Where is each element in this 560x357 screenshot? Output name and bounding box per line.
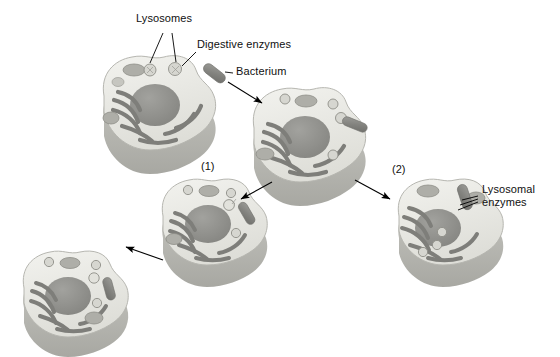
- vesicle: [112, 78, 124, 87]
- cell-step-1: [162, 179, 267, 287]
- label-lysosomal-enzymes-line1: Lysosomal: [482, 183, 535, 196]
- step-label-1: (1): [201, 160, 214, 172]
- label-bacterium: Bacterium: [236, 65, 286, 78]
- diagram-canvas: Lysosomes Digestive enzymes Bacterium Ly…: [0, 0, 560, 357]
- mitochondrion: [103, 112, 119, 124]
- lysosome: [280, 94, 290, 104]
- lysosome-fusing: [224, 200, 235, 211]
- step-label-2: (2): [392, 163, 405, 175]
- cell-process-illustration: [0, 0, 560, 357]
- leader-bacterium: [225, 72, 233, 73]
- mitochondrion: [123, 64, 145, 76]
- label-lysosomal-enzymes-line2: enzymes: [482, 196, 527, 209]
- label-digestive-enzymes: Digestive enzymes: [197, 38, 291, 51]
- label-lysosomes: Lysosomes: [136, 12, 192, 25]
- lysosome: [328, 99, 338, 109]
- arrow-3: [355, 180, 390, 199]
- lysosome: [328, 150, 338, 160]
- cell-contact: [253, 88, 368, 206]
- arrow-4: [126, 247, 163, 260]
- bacterium-free: [201, 62, 227, 85]
- cell-initial: [103, 56, 216, 174]
- cell-final: [23, 251, 128, 357]
- arrow-1: [228, 82, 262, 103]
